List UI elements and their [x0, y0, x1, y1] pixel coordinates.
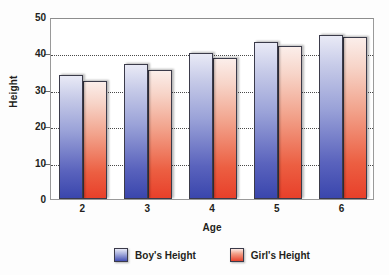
blue-swatch [114, 248, 128, 262]
x-axis-tick-label: 4 [192, 203, 232, 214]
bar-group [189, 19, 237, 199]
chart-figure: Height 01020304050 23456 Age Boy's Heigh… [0, 0, 389, 275]
bar-group [59, 19, 107, 199]
bar-group [124, 19, 172, 199]
bar [189, 53, 213, 199]
bar [254, 42, 278, 199]
legend-entry: Girl's Height [230, 248, 310, 262]
y-axis-tick-label: 20 [16, 122, 46, 132]
chart-legend: Boy's HeightGirl's Height [50, 248, 374, 262]
x-axis-tick-label: 2 [62, 203, 102, 214]
y-axis-tick-label: 50 [16, 13, 46, 23]
red-swatch [230, 248, 244, 262]
bar [343, 37, 367, 199]
y-axis-tick-label: 0 [16, 195, 46, 205]
x-axis-tick-label: 3 [127, 203, 167, 214]
bar-group [254, 19, 302, 199]
bar [213, 58, 237, 199]
x-axis-label: Age [50, 222, 374, 233]
y-axis-tick-label: 30 [16, 86, 46, 96]
bar-group [319, 19, 367, 199]
y-axis-tick-label: 40 [16, 49, 46, 59]
bar [124, 64, 148, 199]
legend-entry: Boy's Height [114, 248, 196, 262]
bar [83, 81, 107, 199]
legend-label: Girl's Height [251, 250, 310, 261]
bar [148, 70, 172, 199]
bar [278, 46, 302, 199]
plot-area [50, 18, 374, 200]
legend-label: Boy's Height [135, 250, 196, 261]
x-axis-tick-label: 5 [257, 203, 297, 214]
x-axis-tick-label: 6 [322, 203, 362, 214]
bar [59, 75, 83, 199]
bar [319, 35, 343, 199]
y-axis-tick-label: 10 [16, 159, 46, 169]
